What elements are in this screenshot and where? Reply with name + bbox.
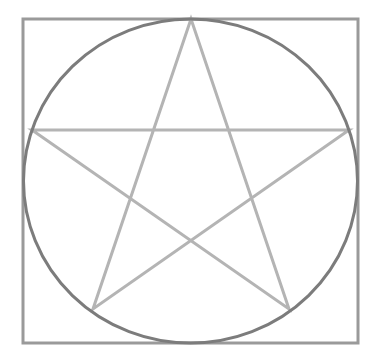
- pentagram-diagram: [0, 0, 381, 360]
- circumscribed-circle: [24, 19, 358, 343]
- pentagram-star: [32, 19, 349, 309]
